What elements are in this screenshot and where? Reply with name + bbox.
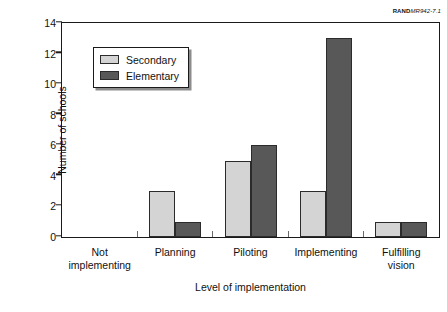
y-tick-label: 14 <box>44 17 56 29</box>
y-tick-label: 4 <box>50 170 56 182</box>
rand-brand-label: RAND <box>393 8 411 14</box>
bar-elementary-1 <box>175 222 201 237</box>
y-tick-mark <box>56 174 62 175</box>
x-category-label: Not implementing <box>68 246 130 271</box>
y-tick-label: 10 <box>44 78 56 90</box>
figure-container: RANDMR942-7.1 Number of schools Level of… <box>0 0 447 312</box>
bar-elementary-3 <box>326 38 352 237</box>
bar-secondary-4 <box>375 222 401 237</box>
x-tick-mark <box>288 231 289 237</box>
y-tick-mark <box>56 82 62 83</box>
y-tick-label: 12 <box>44 48 56 60</box>
y-tick-mark <box>56 204 62 205</box>
x-axis-title: Level of implementation <box>195 281 306 293</box>
y-tick-mark <box>56 51 62 52</box>
y-tick-label: 6 <box>50 139 56 151</box>
legend-swatch-icon <box>100 71 119 80</box>
chart-legend: SecondaryElementary <box>93 47 189 88</box>
bar-secondary-3 <box>300 191 326 237</box>
x-category-label: Fulfilling vision <box>382 246 421 271</box>
y-tick-mark <box>56 113 62 114</box>
rand-source-id: RANDMR942-7.1 <box>393 8 441 14</box>
bar-secondary-2 <box>225 161 251 237</box>
x-tick-mark <box>137 231 138 237</box>
legend-item-elementary: Elementary <box>100 69 179 82</box>
bar-secondary-1 <box>149 191 175 237</box>
rand-figure-number: MR942-7.1 <box>410 8 441 14</box>
x-category-label: Planning <box>155 246 196 259</box>
x-category-label: Implementing <box>294 246 357 259</box>
y-tick-label: 8 <box>50 109 56 121</box>
legend-label: Secondary <box>126 54 176 66</box>
bar-elementary-2 <box>251 145 277 237</box>
y-tick-mark <box>56 21 62 22</box>
x-tick-mark <box>363 231 364 237</box>
y-tick-mark <box>56 143 62 144</box>
y-tick-label: 2 <box>50 200 56 212</box>
legend-label: Elementary <box>126 70 179 82</box>
plot-frame: Number of schools Level of implementatio… <box>61 22 440 238</box>
x-category-label: Piloting <box>233 246 267 259</box>
legend-swatch-icon <box>100 55 119 64</box>
x-tick-mark <box>212 231 213 237</box>
y-tick-mark <box>56 235 62 236</box>
y-tick-label: 0 <box>50 231 56 243</box>
bar-elementary-4 <box>401 222 427 237</box>
legend-item-secondary: Secondary <box>100 53 179 66</box>
